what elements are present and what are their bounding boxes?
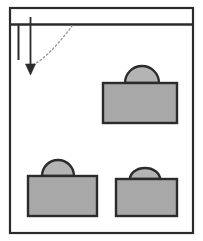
diagram-svg [0,0,203,241]
lock-body [28,176,97,216]
lock-body [103,83,177,123]
diagram-canvas [0,0,203,241]
lock-body [116,179,177,216]
